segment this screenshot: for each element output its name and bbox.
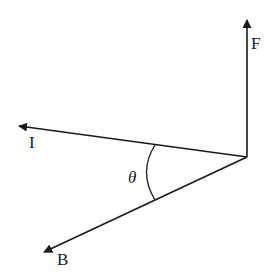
vector-diagram: F I B θ [0,0,270,276]
vector-f-label: F [251,34,260,53]
angle-theta: θ [128,145,155,200]
vector-b-label: B [57,250,68,269]
vector-i: I [19,126,247,157]
angle-arc [147,145,156,200]
vector-b-line [44,157,247,252]
vector-b: B [44,157,247,269]
vector-i-label: I [29,133,35,152]
angle-theta-label: θ [128,168,136,187]
vector-i-line [19,126,247,157]
vector-f: F [247,20,260,157]
